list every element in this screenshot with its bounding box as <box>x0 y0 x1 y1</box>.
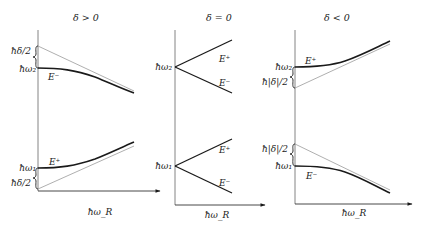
gap-label: ħδ/2 <box>11 178 31 188</box>
x-axis-label: ħω_R <box>88 207 113 218</box>
gap-label: ħ|δ|/2 <box>262 144 288 155</box>
gap-label: ħδ/2 <box>11 46 31 56</box>
level-label: ħω₁ <box>155 161 172 171</box>
x-axis-label: ħω_R <box>205 210 230 221</box>
panel-delta-zero: δ = 0 ħω_R ħω₂ E⁺ E⁻ ħω₁ E⁺ E⁻ <box>155 12 265 221</box>
panel-title: δ < 0 <box>324 12 350 23</box>
curve-label: E⁺ <box>304 56 317 66</box>
energy-level-diagram: δ > 0 ħω_R ħδ/2 ħω₂ E⁻ ħω₁ ħδ/2 E⁺ δ = 0… <box>0 0 424 230</box>
curve-label: E⁻ <box>305 171 318 181</box>
level-label: ħω₂ <box>275 62 292 72</box>
panel-delta-positive: δ > 0 ħω_R ħδ/2 ħω₂ E⁻ ħω₁ ħδ/2 E⁺ <box>11 12 160 218</box>
curve-label: E⁺ <box>48 157 61 167</box>
level-label: ħω₂ <box>19 64 36 74</box>
gap-label: ħ|δ|/2 <box>262 77 288 88</box>
panel-title: δ = 0 <box>206 12 232 23</box>
lower-label: E⁻ <box>218 178 231 188</box>
upper-label: E⁺ <box>218 54 231 64</box>
level-label: ħω₁ <box>19 163 36 173</box>
panel-title: δ > 0 <box>73 12 99 23</box>
level-label: ħω₂ <box>155 62 172 72</box>
curve-label: E⁻ <box>47 72 60 82</box>
x-axis-label: ħω_R <box>342 208 367 219</box>
upper-label: E⁺ <box>218 145 231 155</box>
panel-delta-negative: δ < 0 ħω_R ħω₂ ħ|δ|/2 E⁺ ħ|δ|/2 ħω₁ E⁻ <box>262 12 412 219</box>
lower-label: E⁻ <box>218 78 231 88</box>
level-label: ħω₁ <box>275 161 292 171</box>
